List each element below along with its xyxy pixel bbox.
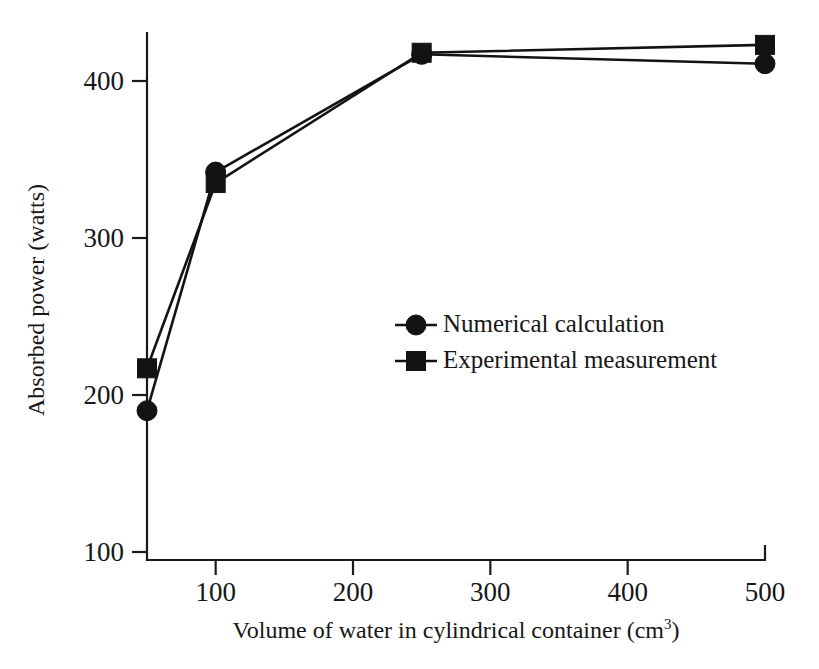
legend-marker-circle-icon: [406, 315, 426, 335]
data-point-square: [756, 35, 775, 54]
x-axis-title: Volume of water in cylindrical container…: [233, 616, 680, 643]
line-chart: 100200300400 100200300400500 Absorbed po…: [0, 0, 819, 669]
chart-legend: Numerical calculationExperimental measur…: [395, 310, 717, 373]
legend-item-1[interactable]: Numerical calculation: [395, 310, 665, 337]
x-axis-ticks: 100200300400500: [195, 545, 785, 607]
figure-container: 100200300400 100200300400500 Absorbed po…: [0, 0, 819, 669]
x-tick-label: 500: [745, 577, 786, 607]
x-axis-title-tail: ): [671, 617, 679, 643]
data-point-circle: [755, 54, 775, 74]
y-tick-label: 400: [84, 66, 125, 96]
data-point-circle: [137, 401, 157, 421]
legend-label: Experimental measurement: [443, 346, 717, 373]
legend-marker-square-icon: [407, 352, 426, 371]
data-point-square: [206, 174, 225, 193]
x-tick-label: 200: [333, 577, 374, 607]
y-axis-ticks: 100200300400: [84, 66, 148, 567]
legend-item-2[interactable]: Experimental measurement: [395, 346, 717, 373]
x-tick-label: 400: [607, 577, 648, 607]
y-tick-label: 200: [84, 380, 125, 410]
y-axis-title: Absorbed power (watts): [23, 184, 49, 416]
data-point-square: [412, 43, 431, 62]
x-tick-label: 300: [470, 577, 511, 607]
y-tick-label: 300: [84, 223, 125, 253]
legend-label: Numerical calculation: [443, 310, 665, 337]
y-tick-label: 100: [84, 537, 125, 567]
x-tick-label: 100: [195, 577, 236, 607]
data-point-square: [138, 359, 157, 378]
x-axis-title-main: Volume of water in cylindrical container…: [233, 617, 665, 643]
x-axis-title-superscript: 3: [664, 616, 672, 632]
